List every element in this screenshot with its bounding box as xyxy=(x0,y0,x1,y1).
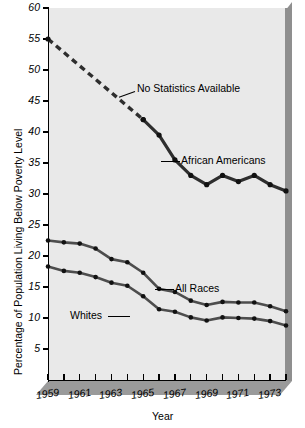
x-tick-1973 xyxy=(269,374,270,380)
y-tick-5 xyxy=(43,348,49,349)
x-tick-1966 xyxy=(158,374,159,380)
x-tick-label-1973: 1973 xyxy=(257,386,282,401)
x-tick-label-1965: 1965 xyxy=(130,386,155,401)
y-tick-25 xyxy=(43,224,49,225)
annotation-african-americans: African Americans xyxy=(181,155,266,166)
y-tick-label-60: 60 xyxy=(12,2,40,12)
x-tick-label-1967: 1967 xyxy=(162,386,187,401)
x-tick-1974 xyxy=(285,374,286,380)
plot-area xyxy=(48,8,285,381)
x-tick-1967 xyxy=(174,374,175,380)
y-tick-label-50: 50 xyxy=(12,64,40,74)
x-tick-1961 xyxy=(79,374,80,380)
y-tick-label-45: 45 xyxy=(12,95,40,105)
y-tick-label-55: 55 xyxy=(12,33,40,43)
x-axis-line xyxy=(48,380,286,381)
x-axis-title: Year xyxy=(152,410,173,422)
x-tick-1964 xyxy=(127,374,128,380)
x-tick-1970 xyxy=(222,374,223,380)
y-tick-35 xyxy=(43,162,49,163)
x-tick-1965 xyxy=(143,374,144,380)
y-tick-50 xyxy=(43,69,49,70)
y-tick-55 xyxy=(43,38,49,39)
x-tick-label-1969: 1969 xyxy=(194,386,219,401)
annotation-all-races: All Races xyxy=(175,283,219,294)
y-tick-20 xyxy=(43,255,49,256)
y-tick-10 xyxy=(43,317,49,318)
x-tick-1963 xyxy=(111,374,112,380)
annotation-whites: Whites xyxy=(70,310,102,321)
y-tick-30 xyxy=(43,193,49,194)
x-tick-1971 xyxy=(238,374,239,380)
y-tick-40 xyxy=(43,131,49,132)
x-tick-1959 xyxy=(47,374,48,380)
y-tick-45 xyxy=(43,100,49,101)
annotation-no-statistics-available: No Statistics Available xyxy=(137,83,240,94)
y-tick-60 xyxy=(43,7,49,8)
x-tick-label-1961: 1961 xyxy=(67,386,92,401)
x-tick-1969 xyxy=(206,374,207,380)
y-tick-15 xyxy=(43,286,49,287)
x-tick-1960 xyxy=(63,374,64,380)
y-axis-line xyxy=(48,8,49,382)
x-tick-label-1971: 1971 xyxy=(225,386,250,401)
plot-shadow-right xyxy=(285,8,292,381)
x-tick-1972 xyxy=(254,374,255,380)
leader-african-americans xyxy=(161,161,180,162)
x-tick-1962 xyxy=(95,374,96,380)
y-axis-title: Percentage of Population Living Below Po… xyxy=(12,129,24,375)
chart-figure: 51015202530354045505560 Percentage of Po… xyxy=(0,0,305,428)
x-tick-label-1963: 1963 xyxy=(98,386,123,401)
leader-all-races xyxy=(155,289,174,290)
leader-whites xyxy=(108,316,130,317)
x-tick-1968 xyxy=(190,374,191,380)
x-tick-label-1959: 1959 xyxy=(35,386,60,401)
